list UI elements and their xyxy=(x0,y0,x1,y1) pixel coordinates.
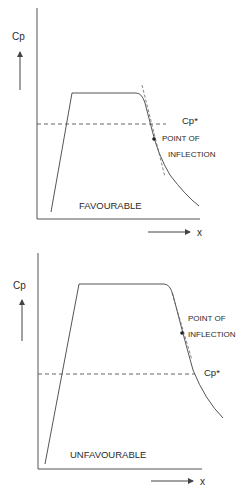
caption: FAVOURABLE xyxy=(79,200,142,211)
diagram-canvas: Cp x Cp* POINT OF INFLECTION FAVOURABLE … xyxy=(0,0,252,495)
inflection-label-1: POINT OF xyxy=(188,314,226,323)
x-axis-label: x xyxy=(200,476,205,487)
y-axis-label: Cp xyxy=(13,280,26,291)
reference-label: Cp* xyxy=(204,367,220,378)
caption: UNFAVOURABLE xyxy=(70,449,146,460)
inflection-point xyxy=(180,331,184,335)
inflection-point xyxy=(152,137,156,141)
x-axis-label: x xyxy=(197,227,202,238)
plot-unfavourable: Cp x Cp* POINT OF INFLECTION UNFAVOURABL… xyxy=(13,253,236,487)
reference-label: Cp* xyxy=(182,115,198,126)
inflection-label-2: INFLECTION xyxy=(168,150,216,159)
inflection-label-2: INFLECTION xyxy=(188,330,236,339)
tangent-line xyxy=(172,293,192,360)
tangent-line xyxy=(142,85,165,177)
plot-favourable: Cp x Cp* POINT OF INFLECTION FAVOURABLE xyxy=(12,8,216,238)
inflection-label-1: POINT OF xyxy=(162,134,200,143)
cp-curve xyxy=(45,284,223,464)
y-axis-label: Cp xyxy=(12,31,25,42)
